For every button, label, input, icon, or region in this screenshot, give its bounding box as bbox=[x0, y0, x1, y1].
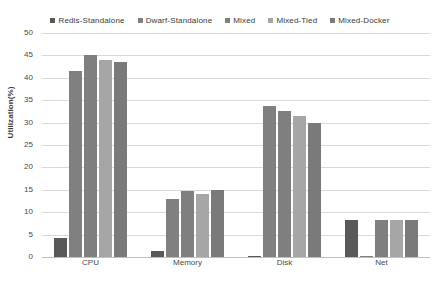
bar[interactable] bbox=[278, 111, 291, 257]
bar[interactable] bbox=[360, 256, 373, 257]
y-tick-label: 20 bbox=[24, 163, 33, 171]
legend-swatch-icon bbox=[225, 18, 230, 23]
bar[interactable] bbox=[390, 220, 403, 257]
bar[interactable] bbox=[99, 60, 112, 257]
legend-swatch-icon bbox=[138, 18, 143, 23]
bar-group bbox=[236, 33, 333, 257]
bar[interactable] bbox=[54, 238, 67, 257]
bar[interactable] bbox=[375, 220, 388, 257]
y-tick-label: 50 bbox=[24, 29, 33, 37]
bar-chart: Redis-StandaloneDwarf-StandaloneMixedMix… bbox=[0, 0, 440, 290]
bar[interactable] bbox=[308, 123, 321, 257]
y-tick-label: 10 bbox=[24, 208, 33, 216]
x-tick-label: Net bbox=[375, 258, 387, 268]
bar[interactable] bbox=[181, 191, 194, 257]
bar-group bbox=[139, 33, 236, 257]
legend-entry[interactable]: Mixed-Tied bbox=[268, 16, 317, 25]
y-tick-label: 40 bbox=[24, 74, 33, 82]
bar[interactable] bbox=[405, 220, 418, 257]
legend-swatch-icon bbox=[50, 18, 55, 23]
legend-entry[interactable]: Mixed-Docker bbox=[330, 16, 389, 25]
legend-label: Redis-Standalone bbox=[58, 16, 124, 25]
bar[interactable] bbox=[84, 55, 97, 257]
y-tick-label: 35 bbox=[24, 96, 33, 104]
y-tick-label: 45 bbox=[24, 51, 33, 59]
legend-entry[interactable]: Redis-Standalone bbox=[50, 16, 124, 25]
y-tick-label: 0 bbox=[29, 253, 33, 261]
x-tick-label: Disk bbox=[277, 258, 293, 268]
bar[interactable] bbox=[345, 220, 358, 257]
bar[interactable] bbox=[263, 106, 276, 257]
bar[interactable] bbox=[293, 116, 306, 257]
legend-label: Mixed bbox=[233, 16, 255, 25]
bar[interactable] bbox=[151, 251, 164, 257]
legend-swatch-icon bbox=[330, 18, 335, 23]
legend-entry[interactable]: Dwarf-Standalone bbox=[138, 16, 213, 25]
bar[interactable] bbox=[114, 62, 127, 257]
y-tick-label: 15 bbox=[24, 186, 33, 194]
bar[interactable] bbox=[196, 194, 209, 257]
x-tick-label: Memory bbox=[173, 258, 202, 268]
bar[interactable] bbox=[211, 190, 224, 257]
bar[interactable] bbox=[166, 199, 179, 257]
x-axis: CPUMemoryDiskNet bbox=[42, 258, 430, 272]
bar[interactable] bbox=[248, 256, 261, 257]
y-tick-label: 5 bbox=[29, 231, 33, 239]
y-axis: 05101520253035404550 bbox=[0, 33, 38, 257]
y-tick-label: 30 bbox=[24, 119, 33, 127]
bar-group bbox=[42, 33, 139, 257]
legend-swatch-icon bbox=[268, 18, 273, 23]
legend-entry[interactable]: Mixed bbox=[225, 16, 255, 25]
x-tick-label: CPU bbox=[82, 258, 99, 268]
bar-group bbox=[333, 33, 430, 257]
legend-label: Dwarf-Standalone bbox=[146, 16, 213, 25]
y-tick-label: 25 bbox=[24, 141, 33, 149]
chart-legend: Redis-StandaloneDwarf-StandaloneMixedMix… bbox=[0, 14, 440, 27]
legend-label: Mixed-Docker bbox=[338, 16, 389, 25]
bar[interactable] bbox=[69, 71, 82, 257]
legend-label: Mixed-Tied bbox=[276, 16, 317, 25]
bars-layer bbox=[42, 33, 430, 257]
